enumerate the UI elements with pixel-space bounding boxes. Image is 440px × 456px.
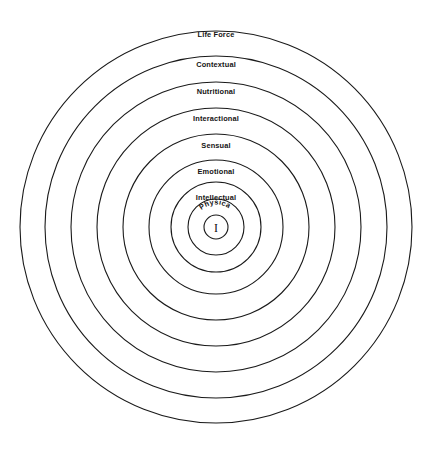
ring-label-sensual: Sensual	[201, 141, 230, 150]
ring-label-life-force: Life Force	[198, 30, 235, 39]
ring-label-interactional: Interactional	[193, 114, 239, 123]
core-label-i: I	[214, 221, 218, 235]
concentric-rings-diagram: Life Force Contextual Nutritional Intera…	[0, 0, 440, 456]
ring-label-contextual: Contextual	[196, 60, 236, 69]
ring-label-nutritional: Nutritional	[197, 87, 236, 96]
ring-label-emotional: Emotional	[197, 167, 234, 176]
rings-canvas: Life Force Contextual Nutritional Intera…	[0, 0, 440, 456]
